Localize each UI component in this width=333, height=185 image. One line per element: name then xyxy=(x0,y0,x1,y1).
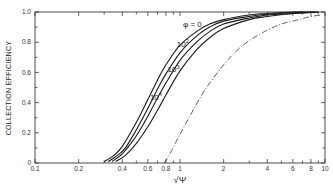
x-tick-label: 10 xyxy=(321,165,329,172)
y-tick-label: 0.8 xyxy=(22,38,31,45)
x-tick-label: 2 xyxy=(222,165,226,172)
x-tick-label: 1 xyxy=(178,165,182,172)
x-tick-label: 0.8 xyxy=(161,165,170,172)
curve-label: 102 xyxy=(177,38,189,49)
x-axis-title: √Ψ xyxy=(173,175,186,185)
x-tick-label: 6 xyxy=(291,165,295,172)
x-tick-label: 4 xyxy=(265,165,269,172)
plot-frame xyxy=(35,12,325,163)
y-tick-label: 1.0 xyxy=(22,8,31,15)
y-tick-label: 0.6 xyxy=(22,69,31,76)
curve-label: 104 xyxy=(150,91,162,102)
x-tick-label: 8 xyxy=(309,165,313,172)
curve-series-2 xyxy=(112,12,318,162)
curve-label: 103 xyxy=(168,64,180,75)
x-tick-label: 0.1 xyxy=(30,165,39,172)
x-tick-label: 0.2 xyxy=(74,165,83,172)
curve-label: φ = 0 xyxy=(183,20,202,29)
y-tick-label: 0 xyxy=(27,159,31,166)
y-tick-label: 0.4 xyxy=(22,99,31,106)
x-tick-label: 0.4 xyxy=(118,165,127,172)
y-axis-title: COLLECTION EFFICIENCY xyxy=(5,41,12,136)
x-axis-ticks: 0.10.20.40.60.81246810 xyxy=(30,12,329,172)
collection-efficiency-chart: 0.10.20.40.60.81246810 00.20.40.60.81.0 … xyxy=(0,0,333,185)
curve-series-0 xyxy=(104,12,311,162)
y-axis-ticks: 00.20.40.60.81.0 xyxy=(22,8,325,166)
curve-series-3 xyxy=(116,12,319,162)
y-tick-label: 0.2 xyxy=(22,129,31,136)
curve-series-4 xyxy=(164,15,321,163)
x-tick-label: 0.6 xyxy=(143,165,152,172)
curves xyxy=(104,12,322,163)
